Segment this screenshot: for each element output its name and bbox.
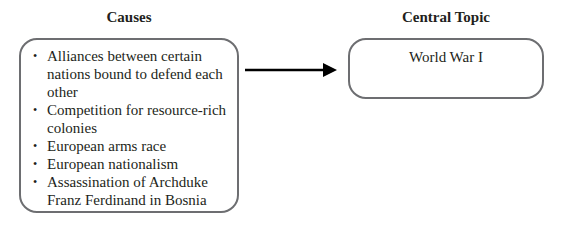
causes-list: Alliances between certain nations bound … <box>33 47 229 209</box>
cause-item: European nationalism <box>33 155 229 173</box>
cause-item: European arms race <box>33 137 229 155</box>
cause-item: Alliances between certain nations bound … <box>33 47 229 101</box>
causes-heading: Causes <box>19 9 239 26</box>
cause-item: Assassination of Archduke Franz Ferdinan… <box>33 173 229 209</box>
central-topic-text: World War I <box>409 49 483 65</box>
central-topic-box: World War I <box>348 38 544 99</box>
cause-item: Competition for resource-rich colonies <box>33 101 229 137</box>
arrow-right-icon <box>245 62 340 78</box>
central-topic-heading: Central Topic <box>348 9 544 26</box>
causes-box: Alliances between certain nations bound … <box>19 38 239 213</box>
